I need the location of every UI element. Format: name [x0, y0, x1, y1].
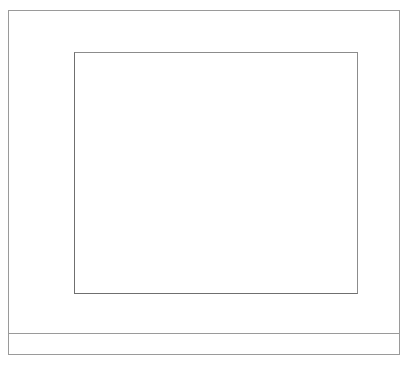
plot-area	[74, 52, 358, 294]
source-separator	[9, 333, 399, 334]
chart-figure	[8, 10, 400, 355]
